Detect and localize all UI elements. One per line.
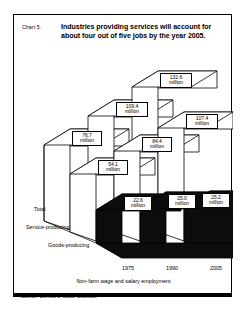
value-label-total-1975: 76.7 million [72, 131, 102, 146]
chart-figure: Chart 5. Industries providing services w… [13, 14, 232, 297]
chart-plot-area: 76.7 million 109.4 million 132.6 million… [14, 15, 233, 298]
legend-label-total: Total [34, 206, 45, 212]
value-label-service-2005: 107.4 million [186, 114, 218, 129]
chart-base-plinth [96, 243, 233, 258]
legend-label-goods: Goods-producing [48, 242, 89, 248]
x-axis-caption: Non-farm wage and salary employment [14, 278, 233, 284]
value-label-goods-1990: 25.0 million [168, 194, 196, 209]
bar-chart-svg [14, 15, 233, 298]
x-axis-tick-1990: 1990 [157, 265, 187, 271]
x-axis-tick-1975: 1975 [113, 265, 143, 271]
legend-label-service: Service-producing [26, 224, 69, 230]
value-label-total-1990: 109.4 million [116, 102, 148, 117]
figure-bottom-rule [13, 293, 232, 296]
value-label-service-1975: 54.1 million [98, 160, 128, 175]
x-axis-tick-2005: 2005 [201, 265, 231, 271]
value-label-goods-2005: 25.2 million [202, 193, 230, 208]
value-label-total-2005: 132.6 million [160, 73, 192, 88]
value-label-goods-1975: 22.6 million [124, 196, 152, 211]
value-label-service-1990: 84.4 million [142, 137, 172, 152]
